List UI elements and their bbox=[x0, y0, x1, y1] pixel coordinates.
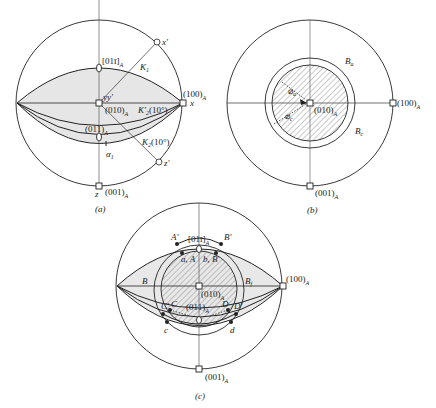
caption-c: (c) bbox=[195, 391, 205, 401]
svg-text:(100)A: (100)A bbox=[397, 98, 421, 110]
svg-text:d: d bbox=[230, 325, 235, 335]
panel-a: [01ī]A K1 (100)A x x' yy' (010)A K'2(10°… bbox=[16, 0, 207, 214]
pole-100-marker bbox=[180, 100, 186, 106]
stereographic-projection-figure: [01ī]A K1 (100)A x x' yy' (010)A K'2(10°… bbox=[0, 0, 436, 408]
svg-text:a, A: a, A bbox=[181, 254, 196, 264]
point-d bbox=[229, 320, 233, 324]
svg-text:z': z' bbox=[163, 158, 171, 168]
svg-text:(100)A: (100)A bbox=[183, 89, 207, 101]
point-C-prime bbox=[161, 312, 165, 316]
point-B-prime bbox=[219, 242, 223, 246]
point-D-prime bbox=[234, 312, 238, 316]
pole-010-marker bbox=[307, 100, 313, 106]
pole-010-marker bbox=[96, 100, 102, 106]
svg-text:α1: α1 bbox=[106, 149, 114, 160]
pole-011-marker bbox=[197, 317, 202, 324]
panel-b: Ba Bc ⌀a ⌀c (010)A (100)A (001)A (b) bbox=[227, 20, 421, 215]
svg-text:yy': yy' bbox=[102, 92, 114, 102]
pole-001-marker bbox=[307, 183, 313, 189]
svg-text:C: C bbox=[171, 299, 178, 309]
svg-text:(100)A: (100)A bbox=[286, 274, 310, 286]
svg-text:K2(10°): K2(10°) bbox=[141, 137, 170, 148]
axis-z-prime-marker bbox=[156, 159, 162, 165]
svg-text:A': A' bbox=[170, 232, 179, 242]
svg-text:x: x bbox=[189, 98, 194, 108]
svg-text:D: D bbox=[221, 299, 229, 309]
pole-100-marker bbox=[390, 100, 396, 106]
pole-001-marker bbox=[196, 366, 202, 372]
svg-text:K1: K1 bbox=[139, 62, 149, 73]
svg-text:b, B: b, B bbox=[203, 254, 218, 264]
point-c bbox=[165, 320, 169, 324]
panel-c: A' B' [01ī]A a, A b, B B Bf (100)A (010)… bbox=[116, 203, 310, 401]
svg-text:B: B bbox=[142, 276, 148, 286]
svg-text:D': D' bbox=[233, 301, 243, 311]
axis-x-prime-marker bbox=[154, 39, 160, 45]
svg-text:C': C' bbox=[161, 301, 170, 311]
caption-b: (b) bbox=[307, 205, 318, 215]
caption-a: (a) bbox=[95, 204, 106, 214]
svg-text:z: z bbox=[94, 189, 99, 199]
svg-text:(001)A: (001)A bbox=[315, 188, 339, 200]
svg-text:K'2(10°): K'2(10°) bbox=[137, 105, 168, 116]
svg-text:(001)A: (001)A bbox=[105, 187, 129, 199]
pole-011-marker bbox=[97, 133, 102, 141]
svg-text:(001)A: (001)A bbox=[205, 372, 229, 384]
svg-text:c: c bbox=[164, 325, 168, 335]
svg-text:Ba: Ba bbox=[345, 56, 354, 67]
svg-text:Bc: Bc bbox=[355, 126, 364, 137]
pole-011bar-marker bbox=[197, 246, 202, 253]
point-A-prime bbox=[175, 242, 179, 246]
svg-text:B': B' bbox=[224, 232, 232, 242]
svg-text:[01ī]A: [01ī]A bbox=[102, 56, 124, 68]
svg-text:x': x' bbox=[161, 37, 169, 47]
pole-011bar-marker bbox=[97, 64, 102, 72]
